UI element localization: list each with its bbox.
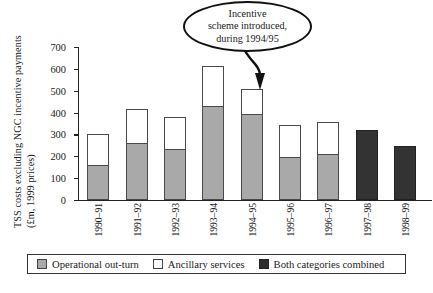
bar-segment-ancillary: [202, 66, 224, 106]
legend-item[interactable]: Both categories combined: [259, 259, 385, 270]
bar-1991-92[interactable]: [126, 109, 148, 200]
x-axis-label: 1998–99: [394, 203, 416, 247]
x-axis-label-text: 1991–92: [131, 203, 142, 237]
y-axis-title-line2: (£m, 1999 prices): [24, 154, 37, 228]
y-tick: 0: [74, 200, 79, 201]
legend-label: Operational out-turn: [52, 259, 139, 270]
bar-segment-ancillary: [241, 89, 263, 114]
y-tick-label: 0: [61, 195, 66, 206]
bar-segment-both: [394, 146, 416, 200]
bar-segment-ancillary: [279, 125, 301, 158]
y-tick-label: 400: [50, 107, 66, 118]
y-tick-label: 700: [50, 42, 66, 53]
x-axis-label-text: 1990–91: [93, 203, 104, 237]
y-tick-label: 500: [50, 85, 66, 96]
bar-1992-93[interactable]: [164, 117, 186, 200]
bar-1996-97[interactable]: [317, 122, 339, 200]
x-axis-label: 1996–97: [317, 203, 339, 247]
x-axis-label-text: 1995–96: [284, 203, 295, 237]
bar-segment-operational: [279, 157, 301, 200]
y-axis-title: TSS costs excluding NGC incentive paymen…: [0, 0, 34, 240]
x-axis-label-text: 1994–95: [246, 203, 257, 237]
bar-segment-both: [356, 130, 378, 200]
bar-segment-operational: [164, 149, 186, 200]
x-axis-label: 1993–94: [202, 203, 224, 247]
x-axis-labels: 1990–911991–921992–931993–941994–951995–…: [79, 203, 424, 249]
bar-1998-99[interactable]: [394, 146, 416, 200]
x-axis-label-text: 1997–98: [361, 203, 372, 237]
x-axis-label: 1992–93: [164, 203, 186, 247]
bar-segment-ancillary: [87, 134, 109, 165]
x-axis-label-text: 1996–97: [323, 203, 334, 237]
y-tick-label: 300: [50, 129, 66, 140]
bar-1995-96[interactable]: [279, 125, 301, 200]
legend-item[interactable]: Ancillary services: [153, 259, 245, 270]
callout-annotation: Incentive scheme introduced, during 1994…: [183, 1, 312, 52]
x-axis-label-text: 1993–94: [208, 203, 219, 237]
legend-swatch-both: [259, 259, 269, 269]
legend-swatch-anc: [153, 259, 163, 269]
callout-line1: Incentive: [208, 8, 287, 20]
chart-legend: Operational out-turnAncillary servicesBo…: [27, 254, 406, 274]
y-axis-title-line1: TSS costs excluding NGC incentive paymen…: [11, 35, 24, 228]
legend-item[interactable]: Operational out-turn: [37, 259, 139, 270]
bar-segment-ancillary: [126, 109, 148, 143]
bar-segment-operational: [126, 143, 148, 200]
bar-segment-operational: [87, 165, 109, 200]
x-axis-label-text: 1998–99: [399, 203, 410, 237]
x-axis-label: 1995–96: [279, 203, 301, 247]
x-axis-label: 1990–91: [87, 203, 109, 247]
y-tick-label: 200: [50, 151, 66, 162]
bar-segment-ancillary: [164, 117, 186, 149]
x-axis-label: 1994–95: [241, 203, 263, 247]
bar-segment-operational: [241, 114, 263, 200]
bar-chart: TSS costs excluding NGC incentive paymen…: [0, 0, 433, 293]
legend-label: Both categories combined: [274, 259, 385, 270]
bar-1994-95[interactable]: [241, 89, 263, 200]
x-axis-label: 1991–92: [126, 203, 148, 247]
x-axis-label-text: 1992–93: [169, 203, 180, 237]
bar-segment-ancillary: [317, 122, 339, 154]
legend-swatch-ops: [37, 259, 47, 269]
bar-1990-91[interactable]: [87, 134, 109, 200]
bar-segment-operational: [202, 106, 224, 200]
y-tick-label: 600: [50, 63, 66, 74]
bar-1993-94[interactable]: [202, 66, 224, 200]
callout-line2: scheme introduced,: [208, 20, 287, 32]
y-tick-label: 100: [50, 173, 66, 184]
legend-label: Ancillary services: [168, 259, 245, 270]
x-axis-label: 1997–98: [356, 203, 378, 247]
x-axis-line: [78, 200, 432, 201]
callout-line3: during 1994/95: [208, 33, 287, 45]
bar-segment-operational: [317, 154, 339, 200]
bar-1997-98[interactable]: [356, 130, 378, 200]
